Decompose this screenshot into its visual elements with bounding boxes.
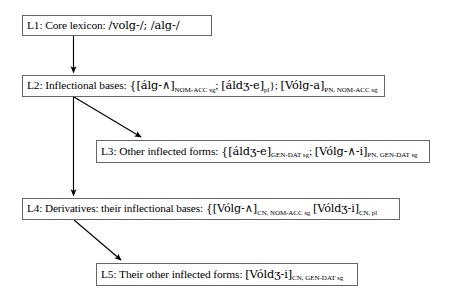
node-l4-subscript-1: CN, NOM-ACC sg: [257, 209, 310, 217]
node-l3-heading: L3: Other inflected forms:: [101, 145, 221, 157]
node-l3-subscript-2: PN, GEN-DAT sg: [367, 151, 417, 159]
node-l4-subscript-2: CN, pl: [359, 209, 377, 217]
node-l1-content: /volg-/; /alg-/: [108, 18, 179, 32]
node-l4-heading: L4: Derivatives: their inflectional base…: [27, 202, 206, 214]
node-l3-subscript-1: GEN-DAT sg: [271, 151, 309, 159]
node-l1-heading: L1: Core lexicon:: [27, 19, 108, 31]
node-l4-derivatives-inflectional-bases: L4: Derivatives: their inflectional base…: [22, 198, 400, 220]
node-l5-text: L5: Their other inflected forms: [Vóldʒ-…: [101, 269, 343, 280]
node-l5-heading: L5: Their other inflected forms:: [101, 268, 245, 280]
node-l2-sep-2: };: [269, 79, 280, 91]
node-l4-form-1: {[Vólg-∧]: [206, 202, 257, 215]
node-l5-subscript-1: CN, GEN-DAT sg: [292, 274, 343, 282]
node-l2-inflectional-bases: L2: Inflectional bases: {[álg-∧]NOM-ACC …: [22, 75, 385, 97]
node-l2-form-2: [áldʒ-e]: [221, 78, 264, 92]
node-l2-subscript-3: PN, NOM-ACC sg: [324, 86, 377, 94]
lexicon-level-diagram: L1: Core lexicon: /volg-/; /alg-/ L2: In…: [0, 0, 451, 302]
node-l2-subscript-1: NOM-ACC sg: [175, 86, 216, 94]
node-l5-their-other-inflected-forms: L5: Their other inflected forms: [Vóldʒ-…: [96, 263, 358, 286]
node-l2-subscript-2: pl: [264, 86, 269, 94]
node-l4-form-2: [Vóldʒ-i]: [313, 202, 359, 215]
node-l2-form-3: [Vólg-a]: [281, 78, 325, 92]
node-l4-text: L4: Derivatives: their inflectional base…: [27, 203, 377, 214]
node-l3-form-2: [Vólg-∧-i]: [315, 144, 368, 158]
node-l2-heading: L2: Inflectional bases:: [27, 79, 129, 91]
node-l3-text: L3: Other inflected forms: {[áldʒ-e]GEN-…: [101, 146, 418, 157]
node-l2-text: L2: Inflectional bases: {[álg-∧]NOM-ACC …: [27, 80, 377, 91]
node-l2-form-1: {[álg-∧]: [129, 78, 174, 92]
node-l3-form-1: {[áldʒ-e]: [221, 144, 271, 158]
edge-l4-to-l5: [74, 220, 121, 260]
edge-l2-to-l3: [74, 97, 141, 137]
node-l1-core-lexicon: L1: Core lexicon: /volg-/; /alg-/: [22, 15, 212, 36]
node-l5-form-1: [Vóldʒ-i]: [245, 267, 292, 281]
node-l1-text: L1: Core lexicon: /volg-/; /alg-/: [27, 20, 179, 31]
node-l3-other-inflected-forms: L3: Other inflected forms: {[áldʒ-e]GEN-…: [96, 140, 430, 163]
